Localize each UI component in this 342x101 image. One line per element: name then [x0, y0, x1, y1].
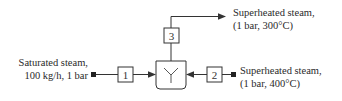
stream-1-tag[interactable]: 1 — [118, 67, 133, 82]
stream-3-label-line1: Superheated steam, — [233, 7, 315, 18]
stream-1-number: 1 — [123, 69, 129, 81]
source-square-icon — [91, 72, 96, 77]
stream-1-label: Saturated steam, 100 kg/h, 1 bar — [19, 57, 89, 81]
stream-3: 3 — [164, 17, 225, 62]
stream-1: 1 — [91, 67, 155, 82]
source-square-icon — [231, 72, 236, 77]
stream-2-label-line1: Superheated steam, — [240, 65, 322, 76]
stream-2-tag[interactable]: 2 — [207, 67, 222, 82]
stream-2-number: 2 — [212, 69, 218, 81]
stream-2-label-line2: (1 bar, 400°C) — [240, 78, 301, 90]
stream-3-number: 3 — [169, 30, 175, 42]
stream-1-label-line1: Saturated steam, — [19, 57, 88, 68]
stream-3-label-line2: (1 bar, 300°C) — [233, 20, 294, 32]
arrow-icon — [171, 17, 225, 29]
mixer-unit[interactable] — [156, 61, 186, 89]
stream-2: 2 — [187, 67, 236, 82]
process-flow-diagram: 1 2 3 Saturated steam, 100 kg/h, 1 bar S… — [0, 0, 342, 101]
stream-3-tag[interactable]: 3 — [164, 28, 179, 43]
stream-1-label-line2: 100 kg/h, 1 bar — [24, 70, 88, 81]
stream-3-label: Superheated steam, (1 bar, 300°C) — [233, 7, 315, 32]
stream-2-label: Superheated steam, (1 bar, 400°C) — [240, 65, 322, 90]
